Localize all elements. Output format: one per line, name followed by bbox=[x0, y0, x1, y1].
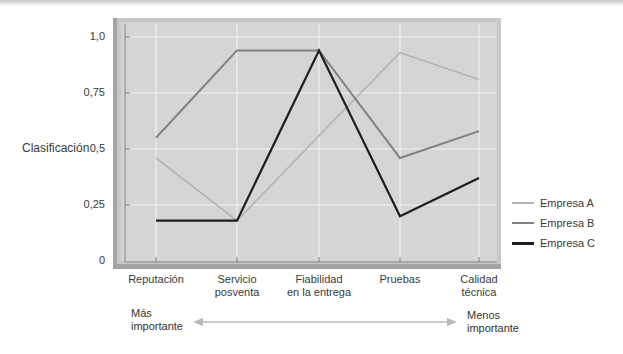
x-tick-line2: técnica bbox=[429, 286, 529, 299]
legend-item-empresa-c: Empresa C bbox=[512, 236, 595, 250]
less-important-line2: importante bbox=[467, 322, 519, 335]
x-tick-label-calidad: Calidad técnica bbox=[429, 273, 529, 299]
x-tick-line2: en la entrega bbox=[269, 286, 369, 299]
importance-arrow bbox=[193, 318, 457, 326]
plot-area bbox=[121, 22, 497, 261]
legend-label: Empresa A bbox=[540, 197, 594, 209]
less-important-line1: Menos bbox=[467, 309, 519, 322]
legend-swatch bbox=[512, 242, 534, 245]
y-tick-label: 0,5 bbox=[65, 142, 105, 155]
legend-item-empresa-a: Empresa A bbox=[512, 196, 594, 210]
line-chart bbox=[0, 0, 623, 354]
more-important-line2: importante bbox=[131, 320, 183, 333]
more-important-line1: Más bbox=[131, 307, 183, 320]
more-important-label: Más importante bbox=[131, 307, 183, 333]
y-tick-label: 0 bbox=[65, 254, 105, 267]
legend-swatch bbox=[512, 222, 534, 224]
legend-label: Empresa C bbox=[540, 237, 595, 249]
y-tick-label: 0,25 bbox=[65, 198, 105, 211]
y-tick-label: 1,0 bbox=[65, 30, 105, 43]
less-important-label: Menos importante bbox=[467, 309, 519, 335]
legend-label: Empresa B bbox=[540, 217, 594, 229]
legend-swatch bbox=[512, 202, 534, 204]
legend-item-empresa-b: Empresa B bbox=[512, 216, 594, 230]
y-tick-label: 0,75 bbox=[65, 86, 105, 99]
x-tick-line1: Calidad bbox=[429, 273, 529, 286]
